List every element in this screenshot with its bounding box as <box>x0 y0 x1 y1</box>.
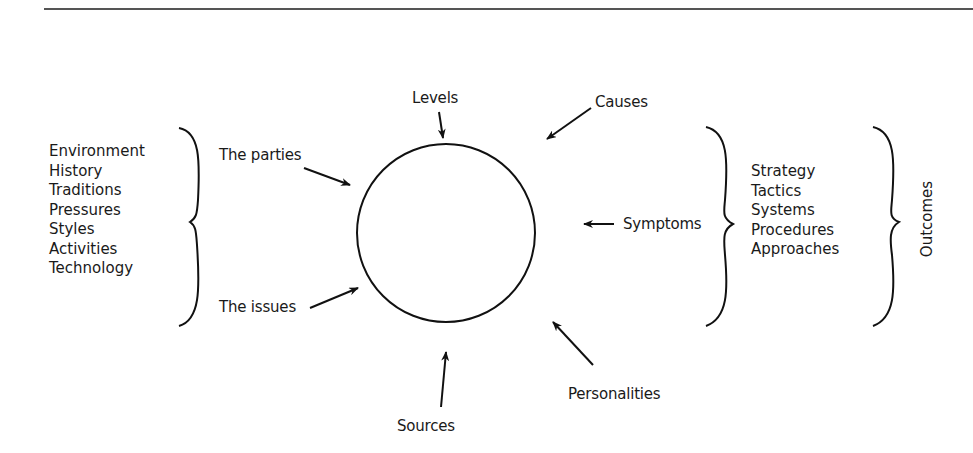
label-the-issues: The issues <box>219 298 296 316</box>
response-item: Procedures <box>751 221 839 241</box>
arrow-levels <box>439 112 443 138</box>
label-sources: Sources <box>397 417 455 435</box>
label-outcomes: Outcomes <box>918 174 936 264</box>
arrow-issues <box>310 288 358 308</box>
middle-brace <box>706 127 733 326</box>
label-causes: Causes <box>595 93 648 111</box>
factor-item: Activities <box>49 240 145 260</box>
central-circle <box>357 144 535 322</box>
factor-item: Technology <box>49 259 145 279</box>
factor-item: Environment <box>49 142 145 162</box>
factor-item: Pressures <box>49 201 145 221</box>
response-item: Systems <box>751 201 839 221</box>
left-factors-list: Environment History Traditions Pressures… <box>49 142 145 279</box>
factor-item: Styles <box>49 220 145 240</box>
arrow-parties <box>304 168 350 185</box>
response-item: Tactics <box>751 182 839 202</box>
response-item: Strategy <box>751 162 839 182</box>
arrow-sources <box>441 352 446 407</box>
right-responses-list: Strategy Tactics Systems Procedures Appr… <box>751 162 839 260</box>
left-brace <box>179 128 199 326</box>
label-personalities: Personalities <box>568 385 660 403</box>
arrow-causes <box>547 108 591 139</box>
factor-item: Traditions <box>49 181 145 201</box>
label-symptoms: Symptoms <box>623 215 701 233</box>
label-the-parties: The parties <box>219 146 301 164</box>
factor-item: History <box>49 162 145 182</box>
response-item: Approaches <box>751 240 839 260</box>
label-levels: Levels <box>412 89 458 107</box>
arrow-personalities <box>553 322 593 365</box>
right-brace <box>873 127 899 326</box>
